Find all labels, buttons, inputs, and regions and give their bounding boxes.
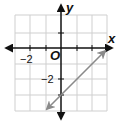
y-tick-label-neg2: −2 — [41, 73, 54, 85]
coordinate-plane: x y O −2 −2 — [0, 0, 118, 121]
origin-label: O — [50, 48, 60, 63]
x-axis-label: x — [107, 31, 116, 46]
y-axis-label: y — [65, 0, 74, 15]
x-tick-label-neg2: −2 — [20, 53, 33, 65]
